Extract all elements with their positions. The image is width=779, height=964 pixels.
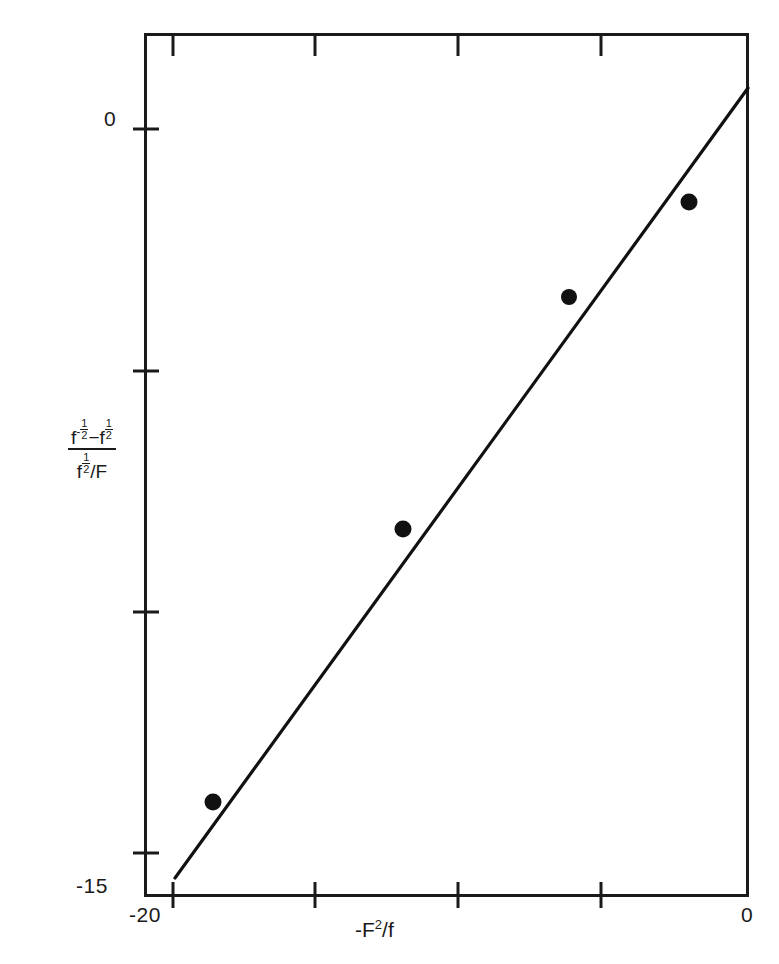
data-point [205, 794, 222, 811]
y-axis-fraction: f-12−f12 f12/F [68, 418, 116, 480]
y-axis-fraction-numerator: f-12−f12 [68, 418, 116, 450]
y-axis-max-tick-label: 0 [104, 107, 116, 131]
data-point [395, 521, 412, 538]
y-axis-min-tick-label: -15 [76, 874, 108, 898]
y-num-minus-f: −f [88, 427, 104, 448]
x-axis-max-tick-label: 0 [741, 903, 753, 927]
plot-svg [0, 0, 779, 964]
y-den-suffix: /F [90, 460, 107, 481]
x-axis-title-exponent: 2 [375, 917, 382, 932]
y-axis-fraction-denominator: f12/F [68, 450, 116, 481]
y-num-half-2: 12 [105, 418, 113, 441]
x-axis-title-base: -F [355, 918, 375, 941]
x-axis-title: -F2/f [355, 918, 394, 942]
x-axis-min-tick-label: -20 [129, 903, 161, 927]
data-point [561, 289, 577, 305]
x-axis-ticks-top [173, 34, 601, 56]
data-points [205, 194, 698, 811]
y-axis-title: f-12−f12 f12/F [38, 418, 146, 480]
data-point [681, 194, 698, 211]
y-num-half-2-den: 2 [105, 430, 113, 441]
x-axis-title-suffix: /f [382, 918, 394, 941]
fitted-line [175, 88, 748, 878]
figure-canvas: 0 -15 -20 0 f-12−f12 f12/F -F2/f [0, 0, 779, 964]
plot-frame [146, 35, 748, 896]
